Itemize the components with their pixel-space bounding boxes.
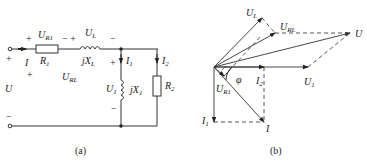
label-I: I xyxy=(24,57,29,68)
label-phasor-URL: URL xyxy=(280,21,296,34)
inductor-XL xyxy=(80,47,100,50)
plus-URL: + xyxy=(27,69,33,80)
label-jX1: jX1 xyxy=(128,84,142,97)
label-phasor-I: I xyxy=(265,123,270,134)
label-angle-phi: φ xyxy=(236,74,242,85)
minus-U1: − xyxy=(111,103,117,114)
resistor-R2 xyxy=(153,76,161,96)
minus-source: − xyxy=(6,111,12,122)
circuit-diagram: + UR1 − + UL − R1 jXL + I + URL U − + I1… xyxy=(5,27,175,157)
minus-R1-right: − + xyxy=(62,33,76,44)
phasor-URL xyxy=(214,33,275,67)
label-U1: U1 xyxy=(106,83,117,96)
plus-U1: + xyxy=(110,57,116,68)
caption-b: (b) xyxy=(270,145,282,157)
label-I2: I2 xyxy=(161,55,169,68)
label-phasor-U1: U1 xyxy=(304,76,315,89)
phasor-diagram: UL URL U U1 UR1 I1 I2 I φ (b) xyxy=(201,7,363,157)
label-U-R1: UR1 xyxy=(38,29,53,42)
label-I1: I1 xyxy=(125,55,133,68)
terminal-bottom xyxy=(8,124,12,128)
plus-R1-left: + xyxy=(26,33,32,44)
label-R1: R1 xyxy=(39,55,50,68)
label-U-L: UL xyxy=(85,27,96,40)
label-U-source: U xyxy=(5,83,13,94)
inductor-X1 xyxy=(121,80,124,100)
minus-L-right: − xyxy=(110,33,116,44)
dash-UL-URL xyxy=(262,18,275,33)
label-phasor-UR1: UR1 xyxy=(216,83,231,96)
label-R2: R2 xyxy=(164,80,175,93)
label-phasor-U: U xyxy=(355,28,363,39)
label-phasor-I1: I1 xyxy=(201,115,209,128)
caption-a: (a) xyxy=(75,145,86,157)
phasor-U xyxy=(214,33,350,67)
label-phasor-UL: UL xyxy=(246,7,257,20)
label-jXL: jXL xyxy=(80,55,95,68)
terminal-top xyxy=(8,47,12,51)
label-U-RL: URL xyxy=(62,71,78,84)
label-phasor-I2: I2 xyxy=(255,75,263,88)
figure: + UR1 − + UL − R1 jXL + I + URL U − + I1… xyxy=(0,0,367,165)
resistor-R1 xyxy=(36,45,58,53)
plus-source: + xyxy=(6,53,12,64)
node-bottom xyxy=(119,124,123,128)
